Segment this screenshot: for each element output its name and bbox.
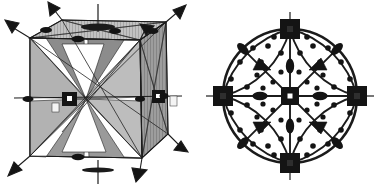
general-position-dot xyxy=(270,107,275,112)
general-position-dot xyxy=(278,50,284,56)
general-position-dot xyxy=(304,34,310,40)
three-fold-arrowhead-upper-back-left xyxy=(48,2,60,16)
two-fold-symbol-right-vertical-edge xyxy=(160,93,169,99)
general-position-dot xyxy=(278,69,283,74)
four-fold-symbol-bottom xyxy=(82,167,114,172)
general-position-dot xyxy=(244,102,250,108)
perspective-cube-panel xyxy=(0,0,195,189)
two-fold-lens-east xyxy=(312,92,327,100)
index-mark-left xyxy=(52,103,59,112)
general-position-dot xyxy=(331,84,337,90)
general-position-dot xyxy=(237,127,243,133)
four-fold-square-south xyxy=(280,153,300,173)
general-position-dot xyxy=(271,152,277,158)
two-fold-lens-south xyxy=(286,118,294,133)
two-fold-symbol-bottom-front-edge xyxy=(72,154,85,160)
four-fold-square-centre xyxy=(281,87,299,105)
two-fold-symbol-top-left-edge xyxy=(40,27,52,33)
general-position-dot xyxy=(260,101,265,106)
general-position-dot xyxy=(244,84,250,90)
general-position-dot xyxy=(310,43,316,49)
general-position-dot xyxy=(297,136,303,142)
four-fold-square-east xyxy=(347,86,367,106)
general-position-dot xyxy=(237,59,243,65)
index-mark-right xyxy=(170,96,177,106)
three-fold-arrowhead-upper-left xyxy=(5,20,19,33)
four-fold-square-west xyxy=(213,86,233,106)
general-position-dot xyxy=(304,152,310,158)
general-position-dot xyxy=(278,117,283,122)
stereographic-projection-panel xyxy=(195,0,384,189)
general-position-dot xyxy=(320,114,325,119)
two-fold-lens-north xyxy=(286,58,294,73)
two-fold-symbol-left-edge xyxy=(23,96,34,102)
general-position-dot xyxy=(304,107,309,112)
general-position-dot xyxy=(314,101,319,106)
general-position-dot xyxy=(254,72,259,77)
general-position-dot xyxy=(297,50,303,56)
general-position-dot xyxy=(296,69,301,74)
two-fold-symbol-mid-front xyxy=(135,96,145,102)
general-position-dot xyxy=(310,143,316,149)
general-position-dot xyxy=(228,76,234,82)
general-position-dot xyxy=(325,45,331,51)
cube-diagram xyxy=(0,0,195,189)
general-position-dot xyxy=(270,79,275,84)
two-fold-symbol-top-back-edge xyxy=(109,28,121,34)
general-position-dot xyxy=(260,85,265,90)
general-position-dot xyxy=(338,127,344,133)
general-position-dot xyxy=(314,85,319,90)
general-position-dot xyxy=(304,79,309,84)
general-position-dot xyxy=(250,45,256,51)
general-position-dot xyxy=(278,136,284,142)
general-position-dot xyxy=(265,43,271,49)
two-fold-symbol-top-right-edge xyxy=(148,28,159,34)
general-position-dot xyxy=(325,141,331,147)
general-position-dot xyxy=(347,110,353,116)
three-fold-arrowhead-upper-back-right xyxy=(173,5,186,19)
four-fold-symbol-top xyxy=(81,24,115,31)
general-position-dot xyxy=(296,117,301,122)
two-fold-lens-west xyxy=(252,92,267,100)
general-position-dot xyxy=(320,72,325,77)
general-position-dot xyxy=(228,110,234,116)
four-fold-square-north xyxy=(280,19,300,39)
stereogram-diagram xyxy=(195,0,384,189)
three-fold-arrowhead-lower-front-right xyxy=(132,168,147,182)
general-position-dot xyxy=(331,102,337,108)
two-fold-symbol-top-front-edge xyxy=(72,36,85,42)
general-position-dot xyxy=(271,34,277,40)
general-position-dot xyxy=(254,114,259,119)
general-position-dot xyxy=(265,143,271,149)
general-position-dot xyxy=(250,141,256,147)
crystallographic-symmetry-figure xyxy=(0,0,384,189)
general-position-dot xyxy=(347,76,353,82)
general-position-dot xyxy=(338,59,344,65)
